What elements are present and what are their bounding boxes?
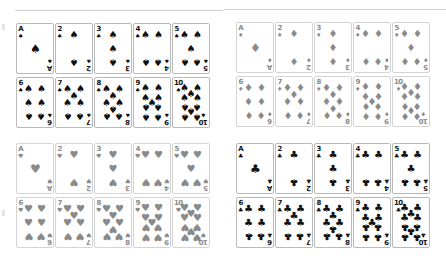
card-8-of-spades[interactable]: 8♠8♠♠♠♠♠♠♠♠♠	[94, 77, 132, 128]
heart-icon: ♥	[164, 178, 169, 184]
club-icon: ♣	[295, 231, 305, 241]
card-2-of-spades[interactable]: 2♠2♠♠♠	[55, 23, 93, 74]
card-7-of-spades[interactable]: 7♠7♠♠♠♠♠♠♠♠	[55, 77, 93, 128]
card-corner-index: 3♣	[345, 178, 350, 191]
club-icon: ♣	[373, 150, 383, 160]
card-10-of-hearts[interactable]: 10♥10♥♥♥♥♥♥♥♥♥♥♥	[172, 197, 210, 248]
card-6-of-spades[interactable]: 6♠6♠♠♠♠♠♠♠	[16, 77, 54, 128]
spade-icon: ♠	[18, 33, 23, 39]
heart-icon: ♥	[153, 222, 163, 232]
card-rank: 4	[164, 64, 168, 71]
card-rank: 3	[125, 64, 129, 71]
diamond-icon: ♦	[412, 29, 422, 39]
side-marker	[2, 210, 5, 216]
diamond-icon: ♦	[256, 83, 266, 93]
diamond-icon: ♦	[244, 97, 254, 107]
diamond-icon: ♦	[361, 111, 371, 121]
card-corner-index: 8♠	[125, 112, 130, 125]
card-4-of-clubs[interactable]: 4♣4♣♣♣♣♣	[353, 143, 391, 194]
card-9-of-clubs[interactable]: 9♣9♣♣♣♣♣♣♣♣♣♣	[353, 197, 391, 248]
card-10-of-clubs[interactable]: 10♣10♣♣♣♣♣♣♣♣♣♣♣	[392, 197, 430, 248]
card-rank: 9	[384, 238, 388, 245]
card-8-of-clubs[interactable]: 8♣8♣♣♣♣♣♣♣♣♣	[314, 197, 352, 248]
card-corner-index: A♦	[267, 57, 272, 70]
spade-icon: ♠	[86, 112, 91, 118]
diamond-icon: ♦	[316, 32, 321, 38]
card-a-of-spades[interactable]: A♠A♠♠	[16, 23, 54, 74]
spade-icon: ♠	[114, 111, 124, 121]
card-3-of-hearts[interactable]: 3♥3♥♥♥♥	[94, 143, 132, 194]
heart-icon: ♥	[141, 177, 151, 187]
card-3-of-spades[interactable]: 3♠3♠♠♠♠	[94, 23, 132, 74]
card-5-of-clubs[interactable]: 5♣5♣♣♣♣♣♣	[392, 143, 430, 194]
card-7-of-diamonds[interactable]: 7♦7♦♦♦♦♦♦♦♦	[275, 76, 313, 127]
card-2-of-clubs[interactable]: 2♣2♣♣♣	[275, 143, 313, 194]
club-icon: ♣	[322, 231, 332, 241]
card-6-of-diamonds[interactable]: 6♦6♦♦♦♦♦♦♦	[236, 76, 274, 127]
card-a-of-diamonds[interactable]: A♦A♦♦	[236, 22, 274, 73]
card-rank: 5	[423, 184, 427, 191]
card-corner-index: 2♦	[277, 25, 282, 38]
card-9-of-spades[interactable]: 9♠9♠♠♠♠♠♠♠♠♠♠	[133, 77, 171, 128]
spade-icon: ♠	[47, 58, 52, 64]
spade-icon: ♠	[24, 111, 34, 121]
spade-icon: ♠	[63, 111, 73, 121]
card-9-of-hearts[interactable]: 9♥9♥♥♥♥♥♥♥♥♥♥	[133, 197, 171, 248]
card-5-of-spades[interactable]: 5♠5♠♠♠♠♠♠	[172, 23, 210, 74]
card-4-of-diamonds[interactable]: 4♦4♦♦♦♦♦	[353, 22, 391, 73]
card-9-of-diamonds[interactable]: 9♦9♦♦♦♦♦♦♦♦♦♦	[353, 76, 391, 127]
club-icon: ♣	[400, 150, 410, 160]
heart-icon: ♥	[141, 150, 151, 160]
diamond-icon: ♦	[406, 43, 416, 53]
card-8-of-diamonds[interactable]: 8♦8♦♦♦♦♦♦♦♦♦	[314, 76, 352, 127]
card-4-of-spades[interactable]: 4♠4♠♠♠♠♠	[133, 23, 171, 74]
card-10-of-spades[interactable]: 10♠10♠♠♠♠♠♠♠♠♠♠♠	[172, 77, 210, 128]
club-icon: ♣	[373, 177, 383, 187]
card-6-of-hearts[interactable]: 6♥6♥♥♥♥♥♥♥	[16, 197, 54, 248]
club-icon: ♣	[316, 153, 321, 159]
spade-icon: ♠	[24, 98, 34, 108]
card-corner-index: 3♠	[125, 58, 130, 71]
diamond-icon: ♦	[412, 111, 422, 121]
club-icon: ♣	[361, 177, 371, 187]
club-icon: ♣	[328, 150, 338, 160]
heart-icon: ♥	[108, 164, 118, 174]
diamond-icon: ♦	[244, 83, 254, 93]
card-2-of-hearts[interactable]: 2♥2♥♥♥	[55, 143, 93, 194]
diamond-icon: ♦	[244, 110, 254, 120]
spade-icon: ♠	[141, 112, 151, 122]
heart-icon: ♥	[75, 218, 85, 228]
card-corner-index: 5♠	[203, 58, 208, 71]
diamond-icon: ♦	[267, 57, 272, 63]
heart-icon: ♥	[24, 204, 34, 214]
card-5-of-hearts[interactable]: 5♥5♥♥♥♥♥♥	[172, 143, 210, 194]
card-rank: 8	[125, 238, 129, 245]
hearts-panel: A♥A♥♥2♥2♥♥♥3♥3♥♥♥♥4♥4♥♥♥♥♥5♥5♥♥♥♥♥♥6♥6♥♥…	[16, 143, 210, 248]
card-2-of-diamonds[interactable]: 2♦2♦♦♦	[275, 22, 313, 73]
card-3-of-clubs[interactable]: 3♣3♣♣♣♣	[314, 143, 352, 194]
club-icon: ♣	[328, 177, 338, 187]
card-a-of-hearts[interactable]: A♥A♥♥	[16, 143, 54, 194]
heart-icon: ♥	[153, 232, 163, 242]
spade-icon: ♠	[153, 102, 163, 112]
card-a-of-clubs[interactable]: A♣A♣♣	[236, 143, 274, 194]
heart-icon: ♥	[36, 218, 46, 228]
spade-icon: ♠	[153, 30, 163, 40]
club-icon: ♣	[345, 178, 350, 184]
card-7-of-hearts[interactable]: 7♥7♥♥♥♥♥♥♥♥	[55, 197, 93, 248]
diamond-icon: ♦	[400, 111, 410, 121]
card-7-of-clubs[interactable]: 7♣7♣♣♣♣♣♣♣♣	[275, 197, 313, 248]
card-3-of-diamonds[interactable]: 3♦3♦♦♦♦	[314, 22, 352, 73]
club-icon: ♣	[267, 232, 272, 238]
card-5-of-diamonds[interactable]: 5♦5♦♦♦♦♦♦	[392, 22, 430, 73]
spade-icon: ♠	[24, 84, 34, 94]
heart-icon: ♥	[180, 150, 190, 160]
card-10-of-diamonds[interactable]: 10♦10♦♦♦♦♦♦♦♦♦♦♦	[392, 76, 430, 127]
card-8-of-hearts[interactable]: 8♥8♥♥♥♥♥♥♥♥♥	[94, 197, 132, 248]
diamond-icon: ♦	[250, 43, 260, 53]
heart-icon: ♥	[47, 232, 52, 238]
card-corner-index: 7♠	[86, 112, 91, 125]
card-6-of-clubs[interactable]: 6♣6♣♣♣♣♣♣♣	[236, 197, 274, 248]
card-4-of-hearts[interactable]: 4♥4♥♥♥♥♥	[133, 143, 171, 194]
club-icon: ♣	[306, 232, 311, 238]
